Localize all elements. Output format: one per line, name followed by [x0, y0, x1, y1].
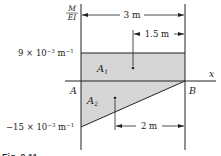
dim-total-label: 3 m: [123, 10, 141, 20]
x-axis-label: x: [209, 69, 214, 79]
figure-caption: Fig. 9.11: [2, 152, 38, 156]
arrowhead-icon: [178, 124, 184, 128]
centroid-2-dot: [114, 97, 117, 100]
arrowhead-icon: [178, 13, 184, 17]
y-axis-label-m: M: [67, 4, 76, 13]
arrowhead-icon: [178, 32, 184, 36]
dim-centroid-2-label: 2 m: [141, 121, 157, 131]
arrowhead-icon: [116, 124, 122, 128]
point-a-label: A: [69, 85, 77, 96]
bottom-value-label: −15 × 10−3 m−1: [6, 122, 74, 132]
arrowhead-icon: [134, 32, 140, 36]
centroid-1-dot: [132, 67, 135, 70]
y-axis-label-ei: EI: [67, 13, 77, 22]
moment-area-diagram: 3 m 1.5 m 2 m A1 A2 A B x M EI 9 × 10−3 …: [0, 0, 221, 156]
top-value-label: 9 × 10−3 m−1: [18, 48, 74, 58]
arrowhead-icon: [82, 13, 88, 17]
dim-centroid-1-label: 1.5 m: [145, 29, 169, 39]
point-b-label: B: [188, 85, 196, 96]
